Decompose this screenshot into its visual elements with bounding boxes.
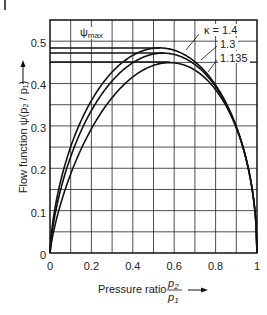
kappa-1.135-label: 1.135 [220,52,248,64]
x-tick-0.2: 0.2 [84,260,99,272]
x-tick-0.4: 0.4 [125,260,140,272]
y-tick-0: 0 [40,249,46,261]
y-tick-0.1: 0.1 [31,207,46,219]
x-label-num: p2 [167,277,179,291]
x-label-den: p1 [167,291,179,305]
x-tick-1: 1 [254,260,260,272]
kappa-1.4-label: κ = 1.4 [204,24,237,36]
x-ticks: 0 0.2 0.4 0.6 0.8 1 [47,260,260,272]
y-arrow-head-icon [21,60,26,67]
kappa-1.3-label: 1.3 [220,38,235,50]
leader-1.3 [201,46,217,60]
y-axis-label: Flow function ψ(p₂ / p₁) [17,81,29,193]
y-tick-0.2: 0.2 [31,164,46,176]
flow-function-chart: 0 0 0.2 0.4 0.6 0.8 1 0 0.1 0.2 0.3 0.4 … [0,0,267,315]
y-tick-0.5: 0.5 [31,37,46,49]
leader-1.4 [186,34,199,50]
x-axis-label: Pressure ratio [98,283,166,295]
x-tick-0.8: 0.8 [208,260,223,272]
x-arrow-head-icon [201,288,208,293]
svg-text:Flow function ψ(p₂ / p₁): Flow function ψ(p₂ / p₁) [17,81,29,193]
x-tick-0: 0 [47,260,53,272]
y-tick-0.4: 0.4 [31,79,46,91]
x-tick-0.6: 0.6 [167,260,182,272]
y-tick-0.3: 0.3 [31,122,46,134]
y-ticks: 0 0.1 0.2 0.3 0.4 0.5 [31,37,46,262]
